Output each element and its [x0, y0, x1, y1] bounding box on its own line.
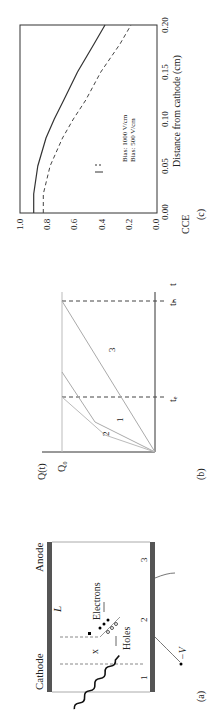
legend-500: Bias: 500 V/cm [130, 118, 137, 162]
ytick-0.0: 0.0 [152, 219, 161, 230]
electrons-label: Electrons [92, 582, 102, 620]
qt-label: Q(t) [37, 463, 47, 480]
curve-1-label: 1 [116, 418, 125, 423]
region-1: 1 [140, 676, 149, 681]
xtick-0.15: 0.15 [161, 64, 170, 80]
xtick-0.20: 0.20 [161, 17, 170, 33]
x-label: x [90, 649, 100, 654]
curve-3-label: 3 [108, 348, 117, 353]
charge-diagram [42, 292, 165, 452]
cathode-label: Cathode [34, 653, 45, 690]
ytick-0.2: 0.2 [125, 219, 134, 230]
xtick-0.10: 0.10 [161, 111, 170, 127]
t-axis-label: t [168, 283, 178, 286]
region-2: 2 [140, 618, 149, 623]
ytick-0.4: 0.4 [98, 219, 107, 230]
caption-b: (b) [196, 468, 206, 480]
q0-label: Q₀ [57, 461, 67, 472]
xtick-0.00: 0.00 [161, 204, 170, 220]
x-axis-title: Distance from cathode (cm) [172, 55, 182, 167]
ytick-0.6: 0.6 [70, 219, 79, 230]
length-label: L [52, 606, 63, 612]
te-label: tₑ [168, 397, 178, 402]
caption-a: (a) [196, 691, 206, 702]
ytick-0.8: 0.8 [43, 219, 52, 230]
detector-diagram [47, 542, 183, 710]
y-axis-title: CCE [181, 215, 191, 234]
legend-1000: Bias: 1000 V/cm [122, 115, 129, 162]
caption-c: (c) [196, 209, 206, 220]
ytick-1.0: 1.0 [16, 219, 25, 230]
anode-label: Anode [34, 543, 45, 572]
voltage-label: −V [178, 647, 188, 660]
holes-label: Holes [122, 627, 132, 650]
figure: Cathode Anode L x Electrons Holes −V 1 2… [0, 0, 212, 712]
th-label: tₕ [168, 299, 178, 306]
xtick-0.05: 0.05 [161, 158, 170, 174]
region-3: 3 [140, 558, 149, 563]
curve-2-label: 2 [102, 432, 111, 437]
